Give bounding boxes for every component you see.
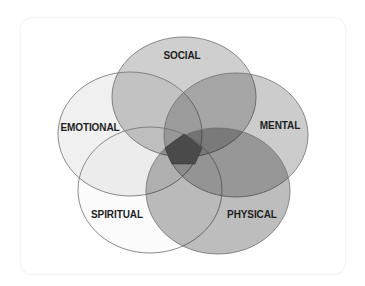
- label-social: SOCIAL: [163, 50, 200, 61]
- label-spiritual: SPIRITUAL: [91, 209, 143, 220]
- label-mental: MENTAL: [260, 120, 300, 131]
- wellness-venn-diagram: SOCIAL EMOTIONAL MENTAL SPIRITUAL PHYSIC…: [0, 0, 365, 286]
- label-physical: PHYSICAL: [227, 209, 277, 220]
- label-emotional: EMOTIONAL: [60, 122, 119, 133]
